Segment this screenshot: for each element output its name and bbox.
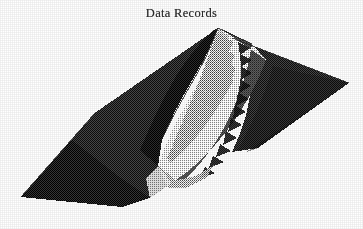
surface-plot-3d (0, 0, 363, 229)
figure-container: Data Records (0, 0, 363, 229)
